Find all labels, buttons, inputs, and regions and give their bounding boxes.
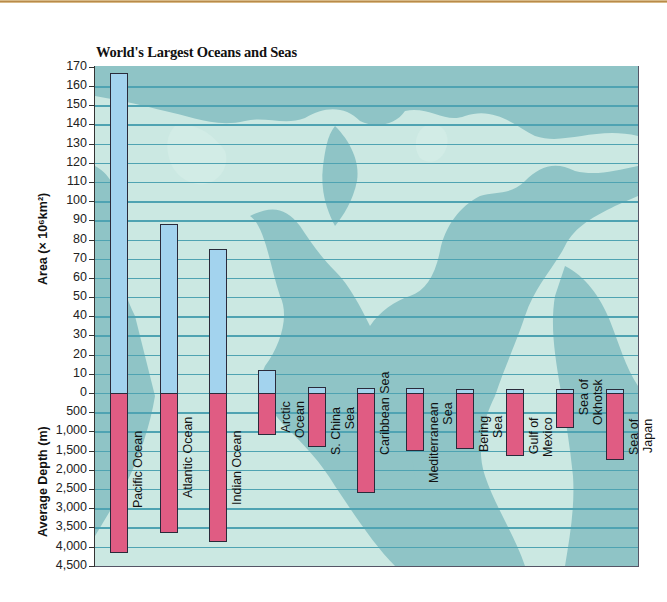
- axis-tick-label: 50: [31, 289, 87, 303]
- gridline: [95, 124, 638, 125]
- depth-bar: [357, 393, 375, 493]
- gridline: [95, 220, 638, 221]
- axis-tick: [89, 144, 95, 145]
- axis-tick-label: 10: [31, 366, 87, 380]
- axis-tick-label: 500: [31, 404, 87, 418]
- area-bar: [110, 73, 128, 394]
- bar-label: Gulf ofMexico: [527, 417, 555, 457]
- axis-tick: [89, 412, 95, 413]
- depth-bar: [456, 393, 474, 449]
- axis-tick-label: 170: [31, 59, 87, 73]
- gridline: [95, 144, 638, 145]
- depth-bar: [209, 393, 227, 542]
- axis-tick: [89, 124, 95, 125]
- axis-tick: [89, 566, 95, 567]
- axis-tick: [89, 451, 95, 452]
- depth-bar: [506, 393, 524, 456]
- gridline: [95, 163, 638, 164]
- area-bar: [258, 370, 276, 394]
- axis-tick: [89, 240, 95, 241]
- axis-tick-label: 150: [31, 97, 87, 111]
- depth-bar: [308, 393, 326, 447]
- gridline: [95, 547, 638, 548]
- axis-tick-label: 120: [31, 155, 87, 169]
- bar-label: BeringSea: [477, 416, 505, 452]
- bar-label: Sea ofJapan: [627, 419, 655, 455]
- gridline: [95, 105, 638, 106]
- axis-tick: [89, 508, 95, 509]
- bar-label: ArcticOcean: [279, 401, 307, 438]
- bar-label: Caribbean Sea: [378, 372, 392, 455]
- axis-tick: [89, 259, 95, 260]
- chart-title: World's Largest Oceans and Seas: [96, 44, 297, 61]
- depth-bar: [160, 393, 178, 533]
- axis-tick: [89, 105, 95, 106]
- axis-tick-label: 20: [31, 347, 87, 361]
- axis-tick: [89, 278, 95, 279]
- axis-tick: [89, 297, 95, 298]
- bar-label: MediterraneanSea: [427, 402, 455, 483]
- axis-tick: [89, 335, 95, 336]
- gridline: [95, 86, 638, 87]
- bar-label: Indian Ocean: [230, 431, 244, 505]
- axis-tick-label: 4,500: [31, 558, 87, 572]
- axis-tick: [89, 374, 95, 375]
- depth-bar: [258, 393, 276, 435]
- axis-tick: [89, 547, 95, 548]
- axis-tick: [89, 182, 95, 183]
- gridline: [95, 182, 638, 183]
- depth-bar: [556, 393, 574, 428]
- axis-tick: [89, 470, 95, 471]
- axis-tick: [89, 201, 95, 202]
- axis-tick-label: 4,000: [31, 539, 87, 553]
- gridline: [95, 201, 638, 202]
- axis-tick: [89, 489, 95, 490]
- depth-bar: [406, 393, 424, 451]
- axis-tick-label: 40: [31, 308, 87, 322]
- axis-tick-label: 160: [31, 78, 87, 92]
- depth-axis-title: Average Depth (m): [36, 426, 50, 537]
- bar-label: Atlantic Ocean: [181, 417, 195, 498]
- depth-bar: [110, 393, 128, 553]
- axis-tick: [89, 316, 95, 317]
- axis-tick: [89, 393, 95, 394]
- axis-tick-label: 130: [31, 136, 87, 150]
- axis-tick: [89, 163, 95, 164]
- top-border: [0, 0, 667, 3]
- area-axis-title: Area (× 10⁶km²): [36, 193, 50, 285]
- bar-label: Sea ofOkhotsk: [577, 379, 605, 425]
- axis-tick: [89, 527, 95, 528]
- axis-tick-label: 30: [31, 327, 87, 341]
- area-bar: [160, 224, 178, 394]
- axis-tick-label: 110: [31, 174, 87, 188]
- axis-tick: [89, 431, 95, 432]
- axis-tick: [89, 67, 95, 68]
- bar-label: Pacific Ocean: [131, 431, 145, 508]
- bar-label: S. ChinaSea: [329, 407, 357, 455]
- axis-tick: [89, 86, 95, 87]
- axis-tick-label: 140: [31, 116, 87, 130]
- axis-tick-label: 0: [31, 385, 87, 399]
- area-bar: [209, 249, 227, 394]
- axis-tick: [89, 355, 95, 356]
- depth-bar: [606, 393, 624, 460]
- axis-tick: [89, 220, 95, 221]
